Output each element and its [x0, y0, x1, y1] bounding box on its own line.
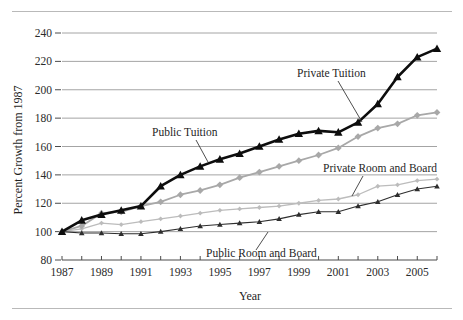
x-tick-label: 1995 [208, 266, 231, 278]
x-tick-label: 1993 [169, 266, 192, 278]
x-tick-labels: 1987198919911993199519971999200120032005 [51, 266, 430, 278]
series-line [62, 49, 437, 232]
data-point-marker [295, 157, 302, 164]
y-axis-title: Percent Growth from 1987 [11, 86, 25, 215]
y-tick-label: 120 [35, 197, 53, 209]
data-point-marker [119, 222, 124, 227]
data-point-marker [395, 182, 400, 187]
data-point-marker [356, 192, 361, 197]
annotation-private-room-and-board: Private Room and Board [323, 162, 437, 196]
data-point-marker [158, 216, 163, 221]
data-point-marker [435, 177, 440, 182]
data-point-marker [394, 120, 401, 127]
series-public-room-and-board [59, 183, 440, 236]
data-point-marker [415, 178, 420, 183]
data-point-marker [434, 183, 440, 188]
data-point-marker [434, 109, 441, 116]
data-point-marker [374, 125, 381, 132]
data-point-marker [414, 112, 421, 119]
data-point-marker [217, 208, 222, 213]
data-point-marker [256, 169, 263, 176]
data-point-marker [157, 198, 164, 205]
y-tick-label: 100 [35, 226, 53, 238]
annotation-public-room-and-board: Public Room and Board [206, 232, 317, 259]
data-point-marker [433, 44, 441, 52]
x-tick-label: 1997 [248, 266, 271, 278]
series-label-text: Public Tuition [152, 126, 218, 138]
data-point-marker [276, 163, 283, 170]
data-point-marker [139, 219, 144, 224]
y-tick-labels: 80100120140160180200220240 [35, 27, 53, 266]
data-point-marker [296, 201, 301, 206]
y-tick-label: 80 [41, 254, 53, 266]
x-tick-label: 2005 [406, 266, 429, 278]
x-tick-label: 2001 [327, 266, 350, 278]
data-point-marker [277, 204, 282, 209]
series-label-text: Public Room and Board [206, 247, 317, 259]
data-point-marker [198, 211, 203, 216]
data-point-marker [177, 191, 184, 198]
y-tick-label: 200 [35, 84, 53, 96]
x-tick-label: 2003 [366, 266, 389, 278]
y-tick-label: 180 [35, 112, 53, 124]
data-point-marker [336, 197, 341, 202]
data-point-marker [375, 184, 380, 189]
data-point-marker [236, 174, 243, 181]
gridlines [62, 33, 437, 232]
data-point-marker [237, 207, 242, 212]
series-annotations: Public TuitionPrivate TuitionPrivate Roo… [152, 67, 437, 259]
y-tick-label: 240 [35, 27, 53, 39]
data-point-marker [178, 214, 183, 219]
annotation-leader-line [338, 81, 362, 122]
annotation-private-tuition: Private Tuition [297, 67, 366, 122]
x-tick-label: 1987 [51, 266, 74, 278]
annotation-leader-line [196, 140, 208, 162]
y-tick-label: 220 [35, 55, 53, 67]
series-label-text: Private Tuition [297, 67, 366, 79]
series-line [62, 179, 437, 232]
series-label-text: Private Room and Board [323, 162, 437, 174]
line-chart: 80100120140160180200220240 1987198919911… [0, 0, 463, 320]
annotation-public-tuition: Public Tuition [152, 126, 218, 162]
x-tick-label: 1999 [287, 266, 310, 278]
data-point-marker [99, 221, 104, 226]
series-private-room-and-board [60, 177, 440, 234]
data-point-marker [197, 187, 204, 194]
series-public-tuition [58, 44, 441, 235]
x-tick-label: 1991 [129, 266, 152, 278]
data-point-marker [315, 152, 322, 159]
y-tick-label: 160 [35, 141, 53, 153]
data-series-group [58, 44, 441, 236]
data-point-marker [257, 205, 262, 210]
data-point-marker [316, 198, 321, 203]
y-axis [55, 33, 61, 260]
y-tick-label: 140 [35, 169, 53, 181]
x-axis-title: Year [239, 289, 261, 303]
data-point-marker [216, 181, 223, 188]
x-tick-label: 1989 [90, 266, 113, 278]
figure-container: 80100120140160180200220240 1987198919911… [0, 0, 463, 320]
